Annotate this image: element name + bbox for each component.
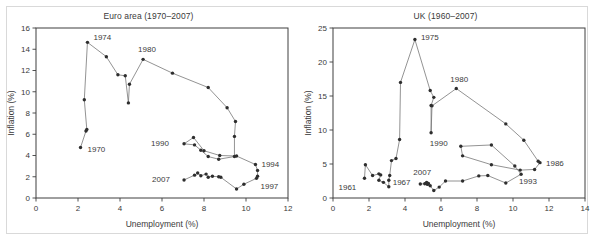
data-point-marker bbox=[199, 148, 202, 151]
data-point-marker bbox=[218, 154, 221, 157]
y-tick-label: 25 bbox=[318, 24, 327, 33]
data-point-marker bbox=[413, 38, 416, 41]
data-point-marker bbox=[519, 168, 522, 171]
chart-panel-euro-area: Euro area (1970–2007) 024681012141602468… bbox=[0, 0, 297, 240]
data-point-marker bbox=[519, 173, 522, 176]
data-point-marker bbox=[85, 128, 88, 131]
data-point-marker bbox=[127, 101, 130, 104]
y-tick-label: 2 bbox=[26, 173, 31, 182]
data-point-marker bbox=[202, 149, 205, 152]
x-tick-label: 2 bbox=[367, 204, 372, 213]
data-point-marker bbox=[235, 187, 238, 190]
data-point-marker bbox=[193, 143, 196, 146]
x-tick-label: 4 bbox=[118, 204, 123, 213]
data-point-marker bbox=[86, 41, 89, 44]
data-point-marker bbox=[388, 174, 391, 177]
data-point-marker bbox=[387, 179, 390, 182]
plot-area-border bbox=[36, 28, 288, 198]
x-axis-title: Unemployment (%) bbox=[423, 219, 496, 229]
y-tick-label: 16 bbox=[21, 24, 30, 33]
data-point-marker bbox=[116, 73, 119, 76]
data-point-marker bbox=[235, 154, 238, 157]
data-point-marker bbox=[419, 182, 422, 185]
chart-panel-uk: UK (1960–2007) 051015202502468101214Unem… bbox=[297, 0, 594, 240]
data-point-marker bbox=[455, 87, 458, 90]
data-point-marker bbox=[182, 178, 185, 181]
y-axis-title: Inflation (%) bbox=[6, 90, 16, 136]
x-tick-label: 12 bbox=[545, 204, 554, 213]
data-point-marker bbox=[486, 174, 489, 177]
point-annotation-1980: 1980 bbox=[450, 75, 468, 84]
data-point-marker bbox=[207, 176, 210, 179]
data-point-marker bbox=[429, 89, 432, 92]
point-annotation-1967: 1967 bbox=[393, 178, 411, 187]
data-point-marker bbox=[371, 174, 374, 177]
point-annotation-1975: 1975 bbox=[421, 33, 439, 42]
data-point-marker bbox=[398, 138, 401, 141]
data-point-marker bbox=[363, 177, 366, 180]
data-point-marker bbox=[199, 174, 202, 177]
data-point-marker bbox=[364, 163, 367, 166]
x-tick-label: 8 bbox=[202, 204, 207, 213]
point-annotation-1980: 1980 bbox=[138, 45, 156, 54]
point-annotation-1997: 1997 bbox=[261, 182, 279, 191]
data-point-marker bbox=[211, 175, 214, 178]
data-point-marker bbox=[394, 157, 397, 160]
point-annotation-1990: 1990 bbox=[151, 139, 169, 148]
y-tick-label: 6 bbox=[26, 130, 31, 139]
y-tick-label: 4 bbox=[26, 151, 31, 160]
data-point-marker bbox=[382, 181, 385, 184]
y-tick-label: 14 bbox=[21, 45, 30, 54]
data-point-marker bbox=[533, 168, 536, 171]
x-tick-label: 14 bbox=[581, 204, 590, 213]
data-point-marker bbox=[256, 169, 259, 172]
data-point-marker bbox=[255, 177, 258, 180]
x-tick-label: 6 bbox=[439, 204, 444, 213]
data-point-marker bbox=[387, 185, 390, 188]
figure-root: Euro area (1970–2007) 024681012141602468… bbox=[0, 0, 594, 240]
y-tick-label: 12 bbox=[21, 66, 30, 75]
x-tick-label: 4 bbox=[403, 204, 408, 213]
data-point-marker bbox=[254, 163, 257, 166]
data-point-marker bbox=[83, 98, 86, 101]
x-tick-label: 0 bbox=[331, 204, 336, 213]
chart-canvas-euro-area: 0246810121416024681012Unemployment (%)In… bbox=[0, 0, 297, 240]
data-point-marker bbox=[522, 139, 525, 142]
point-annotation-1970: 1970 bbox=[88, 145, 106, 154]
data-point-marker bbox=[461, 154, 464, 157]
data-point-marker bbox=[538, 161, 541, 164]
point-annotation-1986: 1986 bbox=[546, 159, 564, 168]
data-point-marker bbox=[490, 143, 493, 146]
data-point-marker bbox=[513, 164, 516, 167]
data-point-marker bbox=[459, 145, 462, 148]
y-tick-label: 0 bbox=[26, 194, 31, 203]
point-annotation-1990: 1990 bbox=[430, 139, 448, 148]
y-tick-label: 8 bbox=[26, 109, 31, 118]
point-annotation-1961: 1961 bbox=[339, 183, 357, 192]
point-annotation-1974: 1974 bbox=[93, 33, 111, 42]
data-point-marker bbox=[141, 58, 144, 61]
point-annotation-1994: 1994 bbox=[261, 160, 279, 169]
y-tick-label: 5 bbox=[323, 160, 328, 169]
x-tick-label: 10 bbox=[242, 204, 251, 213]
series-line bbox=[81, 42, 258, 189]
data-point-marker bbox=[193, 173, 196, 176]
y-tick-label: 20 bbox=[318, 58, 327, 67]
data-point-marker bbox=[217, 175, 220, 178]
data-point-marker bbox=[225, 106, 228, 109]
y-tick-label: 10 bbox=[318, 126, 327, 135]
data-point-marker bbox=[234, 120, 237, 123]
data-point-marker bbox=[427, 182, 430, 185]
point-annotation-2007: 2007 bbox=[152, 175, 170, 184]
data-point-marker bbox=[429, 131, 432, 134]
data-point-marker bbox=[192, 136, 195, 139]
x-tick-label: 12 bbox=[284, 204, 293, 213]
y-axis-title: Inflation (%) bbox=[303, 90, 313, 136]
data-point-marker bbox=[128, 83, 131, 86]
data-point-marker bbox=[377, 179, 380, 182]
data-point-marker bbox=[432, 96, 435, 99]
x-tick-label: 0 bbox=[34, 204, 39, 213]
y-tick-label: 0 bbox=[323, 194, 328, 203]
x-axis-title: Unemployment (%) bbox=[126, 219, 199, 229]
data-point-marker bbox=[430, 104, 433, 107]
